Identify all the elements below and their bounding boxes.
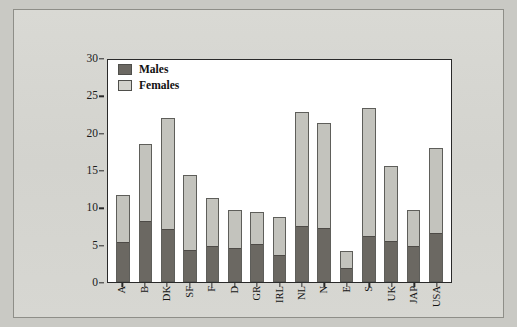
- bar-segment-females: [296, 113, 308, 227]
- x-tick-label-b: B: [139, 286, 150, 293]
- bar-segment-males: [408, 246, 420, 281]
- legend-label: Females: [139, 80, 179, 92]
- bar-segment-males: [117, 242, 129, 281]
- x-label-slot: E: [336, 284, 358, 327]
- bar-segment-females: [207, 199, 219, 246]
- stacked-bar-s[interactable]: [362, 108, 376, 282]
- bar-segment-males: [385, 241, 397, 281]
- bar-segment-females: [341, 252, 353, 268]
- x-label-slot: F: [201, 284, 223, 327]
- bar-segment-males: [251, 244, 263, 281]
- bar-segment-males: [162, 229, 174, 281]
- bar-segment-females: [408, 211, 420, 247]
- bar-segment-males: [430, 233, 442, 281]
- legend-item-males[interactable]: Males: [118, 64, 179, 76]
- stacked-bar-nl[interactable]: [295, 112, 309, 282]
- x-tick-label-e: E: [342, 286, 353, 292]
- x-tick-label-a: A: [117, 286, 128, 294]
- x-label-slot: NL: [291, 284, 313, 327]
- bar-slot: [335, 60, 357, 282]
- y-tick-label: 25: [87, 91, 99, 103]
- x-tick-label-dk: DK: [162, 286, 173, 301]
- x-axis-labels: ABDKSFFDGRIRLNLNESUKJAPUSA: [107, 284, 452, 327]
- legend-swatch-females: [118, 80, 132, 91]
- stacked-bar-usa[interactable]: [429, 148, 443, 282]
- x-label-slot: A: [111, 284, 133, 327]
- bar-segment-males: [229, 248, 241, 281]
- x-tick-label-gr: GR: [252, 286, 263, 301]
- bar-segment-males: [184, 250, 196, 281]
- x-label-slot: GR: [246, 284, 268, 327]
- bar-slot: [201, 60, 223, 282]
- stacked-bar-gr[interactable]: [250, 212, 264, 282]
- x-label-slot: JAP: [403, 284, 425, 327]
- x-tick-label-d: D: [229, 286, 240, 294]
- stacked-bar-jap[interactable]: [407, 210, 421, 282]
- bar-slot: [157, 60, 179, 282]
- stacked-bar-e[interactable]: [340, 251, 354, 282]
- stacked-bar-dk[interactable]: [161, 118, 175, 282]
- y-tick-mark: [99, 245, 104, 246]
- bar-slot: [291, 60, 313, 282]
- bar-slot: [425, 60, 447, 282]
- y-tick-label: 20: [87, 128, 99, 140]
- bar-series-container: [108, 60, 451, 282]
- y-tick-mark: [99, 96, 104, 97]
- bar-slot: [380, 60, 402, 282]
- bar-segment-females: [318, 124, 330, 228]
- x-tick-label-sf: SF: [184, 286, 195, 298]
- bar-slot: [402, 60, 424, 282]
- x-label-slot: SF: [178, 284, 200, 327]
- x-tick-label-f: F: [207, 286, 218, 292]
- bar-segment-males: [274, 255, 286, 281]
- stacked-bar-irl[interactable]: [273, 217, 287, 282]
- screenshot-root: 051015202530 ABDKSFFDGRIRLNLNESUKJAPUSA …: [0, 0, 517, 327]
- y-tick-label: 10: [87, 203, 99, 215]
- x-tick-label-uk: UK: [387, 286, 398, 301]
- bar-slot: [224, 60, 246, 282]
- stacked-bar-d[interactable]: [228, 210, 242, 282]
- x-label-slot: S: [358, 284, 380, 327]
- bar-segment-females: [140, 145, 152, 221]
- x-label-slot: USA: [426, 284, 448, 327]
- figure-card: 051015202530 ABDKSFFDGRIRLNLNESUKJAPUSA …: [13, 9, 504, 318]
- bar-segment-females: [385, 167, 397, 241]
- bar-segment-males: [140, 221, 152, 281]
- y-tick-label: 5: [92, 240, 98, 252]
- legend-item-females[interactable]: Females: [118, 80, 179, 92]
- y-tick-mark: [99, 58, 104, 59]
- stacked-bar-sf[interactable]: [183, 175, 197, 282]
- x-label-slot: N: [313, 284, 335, 327]
- stacked-bar-n[interactable]: [317, 123, 331, 282]
- x-label-slot: D: [223, 284, 245, 327]
- y-tick-mark: [99, 208, 104, 209]
- bar-slot: [268, 60, 290, 282]
- bar-segment-females: [184, 176, 196, 249]
- stacked-bar-f[interactable]: [206, 198, 220, 282]
- bar-segment-males: [341, 268, 353, 281]
- legend-swatch-males: [118, 64, 132, 75]
- bar-slot: [179, 60, 201, 282]
- stacked-bar-a[interactable]: [116, 195, 130, 282]
- x-label-slot: UK: [381, 284, 403, 327]
- y-axis: 051015202530: [72, 50, 104, 292]
- y-tick-label: 15: [87, 165, 99, 177]
- bar-segment-females: [363, 109, 375, 236]
- bar-slot: [358, 60, 380, 282]
- x-label-slot: B: [133, 284, 155, 327]
- legend-label: Males: [139, 64, 168, 76]
- bar-segment-males: [207, 246, 219, 281]
- stacked-bar-b[interactable]: [139, 144, 153, 282]
- bar-segment-males: [318, 228, 330, 281]
- x-label-slot: DK: [156, 284, 178, 327]
- x-tick-label-usa: USA: [432, 286, 443, 307]
- bar-segment-males: [363, 236, 375, 281]
- stacked-bar-uk[interactable]: [384, 166, 398, 282]
- bar-segment-females: [229, 211, 241, 247]
- bar-slot: [313, 60, 335, 282]
- x-tick-label-jap: JAP: [409, 286, 420, 304]
- y-tick-label: 30: [87, 53, 99, 65]
- x-tick-label-nl: NL: [297, 286, 308, 300]
- y-tick-label: 0: [92, 277, 98, 289]
- bar-segment-females: [162, 119, 174, 229]
